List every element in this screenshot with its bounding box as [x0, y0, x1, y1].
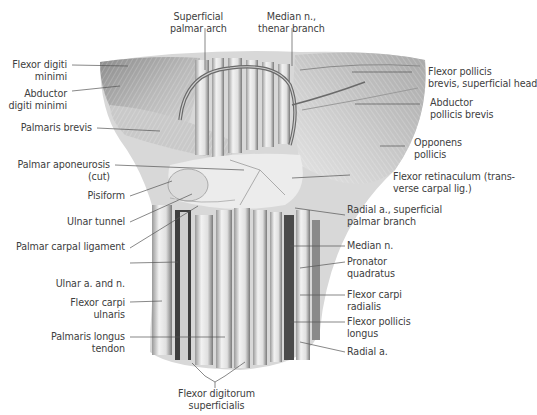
label-palmar-carpal-ligament: Palmar carpal ligament — [16, 241, 125, 253]
label-flexor-carpi-ulnaris: Flexor carpi ulnaris — [70, 297, 125, 321]
label-flexor-pollicis-longus: Flexor pollicis longus — [347, 316, 411, 340]
label-abductor-pollicis-brevis: Abductor pollicis brevis — [430, 97, 494, 121]
label-radial-a-superficial-palmar-branch: Radial a., superficial palmar branch — [347, 204, 442, 228]
label-flexor-digiti-minimi: Flexor digiti minimi — [12, 59, 67, 83]
label-abductor-digiti-minimi: Abductor digiti minimi — [9, 88, 67, 112]
label-superficial-palmar-arch: Superficial palmar arch — [170, 11, 227, 35]
label-flexor-pollicis-brevis: Flexor pollicis brevis, superficial head — [428, 66, 537, 90]
label-pronator-quadratus: Pronator quadratus — [347, 256, 395, 280]
label-radial-a: Radial a. — [347, 346, 388, 358]
label-palmaris-longus-tendon: Palmaris longus tendon — [51, 331, 125, 355]
label-flexor-carpi-radialis: Flexor carpi radialis — [347, 289, 402, 313]
label-ulnar-tunnel: Ulnar tunnel — [67, 216, 125, 228]
label-median-n-thenar-branch: Median n., thenar branch — [258, 11, 325, 35]
label-flexor-digitorum-superficialis: Flexor digitorum superficialis — [178, 388, 255, 412]
label-ulnar-a-and-n: Ulnar a. and n. — [56, 278, 125, 290]
label-opponens-pollicis: Opponens pollicis — [414, 137, 462, 161]
label-pisiform: Pisiform — [88, 190, 125, 202]
label-median-n: Median n. — [347, 240, 393, 252]
label-palmaris-brevis: Palmaris brevis — [21, 122, 92, 134]
label-palmar-aponeurosis: Palmar aponeurosis (cut) — [18, 159, 110, 183]
label-flexor-retinaculum: Flexor retinaculum (trans- verse carpal … — [393, 171, 515, 195]
